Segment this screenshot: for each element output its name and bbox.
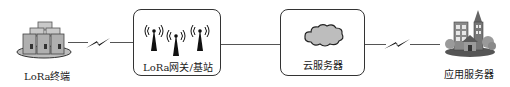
wireless-bolt-icon [86,36,110,50]
edge-terminal-gateway-right [110,42,134,43]
node-label: LoRa终端 [24,68,70,83]
edge-gateway-cloud [221,44,281,45]
antenna-tower-icon [144,23,212,57]
node-label: LoRa网关/基站 [143,59,213,74]
node-label: 云服务器 [303,57,343,72]
node-cloud-server: 云服务器 [280,9,365,76]
edge-cloud-app-left [364,44,386,45]
cloud-icon [303,22,345,48]
server-stack-icon [14,18,74,60]
node-label: 应用服务器 [444,66,494,81]
node-lora-terminal: LoRa终端 [14,18,74,80]
buildings-icon [444,8,500,58]
wireless-bolt-icon [384,37,410,51]
node-application-server: 应用服务器 [440,8,506,82]
node-lora-gateway: LoRa网关/基站 [133,9,221,76]
edge-cloud-app-right [410,44,440,45]
